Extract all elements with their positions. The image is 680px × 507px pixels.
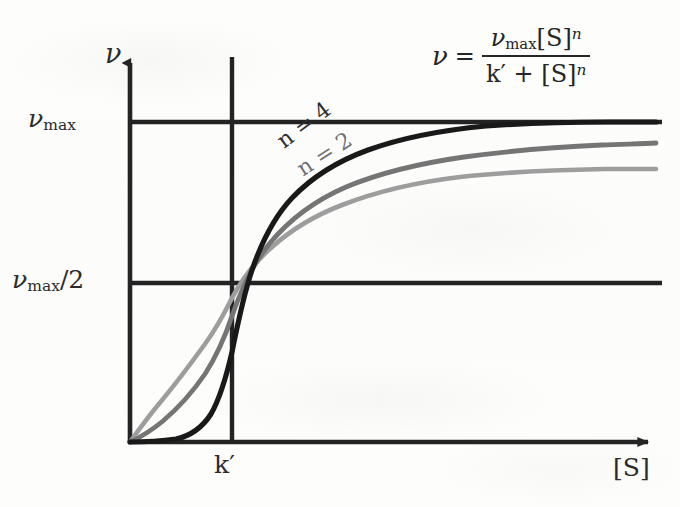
equation-fraction: νmax[S]n k′ + [S]n <box>482 24 590 88</box>
curve-n1 <box>130 169 656 442</box>
y-axis-title: ν <box>105 40 121 67</box>
denominator-bracket: [S] <box>541 60 576 88</box>
kinetics-figure: ν [S] νmax νmax/2 k′ n = 4 n = 2 ν = νma… <box>0 0 680 507</box>
equation-numerator: νmax[S]n <box>487 24 586 55</box>
denominator-plus: + <box>514 60 534 88</box>
hill-equation: ν = νmax[S]n k′ + [S]n <box>432 24 590 88</box>
equation-denominator: k′ + [S]n <box>482 57 590 88</box>
vmax-subscript: max <box>43 116 76 134</box>
x-axis-title: [S] <box>613 455 650 480</box>
equation-lhs: ν <box>432 41 448 71</box>
vmax-half-symbol: ν <box>12 265 27 294</box>
numerator-exponent: n <box>572 25 582 43</box>
numerator-sub: max <box>505 35 536 53</box>
equation-operator: = <box>455 42 475 70</box>
y-tick-label-vmax-half: νmax/2 <box>12 267 84 295</box>
vmax-symbol: ν <box>28 104 43 133</box>
numerator-bracket: [S] <box>537 24 572 52</box>
x-tick-label-kprime: k′ <box>214 452 235 477</box>
y-tick-label-vmax: νmax <box>28 106 76 134</box>
numerator-v: ν <box>491 24 506 52</box>
denominator-k: k′ <box>486 60 506 88</box>
vmax-half-suffix: /2 <box>60 265 84 294</box>
denominator-exponent: n <box>576 61 586 79</box>
vmax-half-subscript: max <box>27 277 60 295</box>
